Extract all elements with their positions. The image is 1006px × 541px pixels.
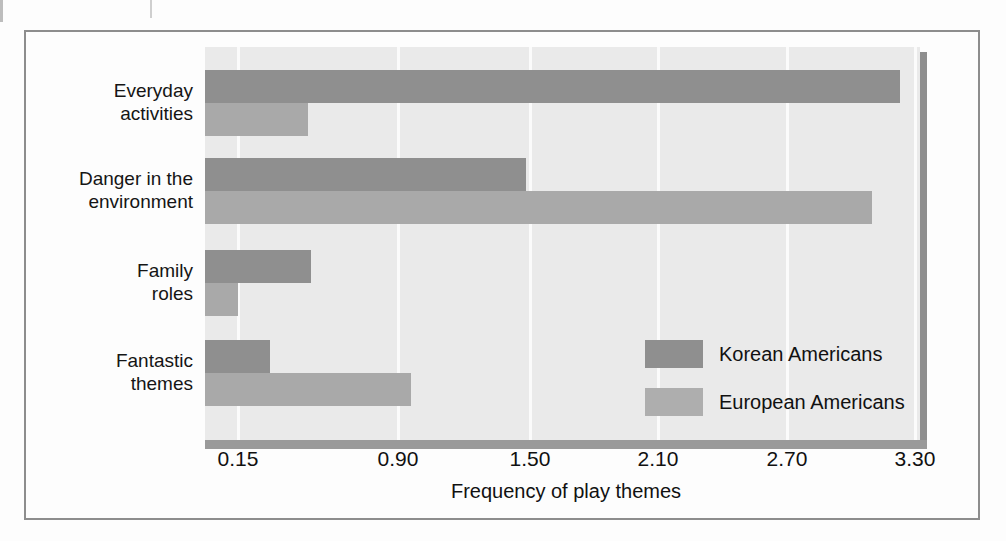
category-label-family-roles: Familyroles xyxy=(13,259,193,305)
category-label-line1: Danger in the xyxy=(13,167,193,190)
figure-container: EverydayactivitiesDanger in theenvironme… xyxy=(0,0,1006,541)
plot-shadow-right xyxy=(920,52,927,444)
bar-danger-in-the-environment-european-americans[interactable] xyxy=(205,191,872,224)
bar-everyday-activities-european-americans[interactable] xyxy=(205,103,308,136)
bar-fantastic-themes-european-americans[interactable] xyxy=(205,373,411,406)
legend-swatch-korean-americans xyxy=(645,340,703,368)
category-label-danger-in-the-environment: Danger in theenvironment xyxy=(13,167,193,213)
bar-family-roles-european-americans[interactable] xyxy=(205,283,238,316)
legend-label-european-americans: European Americans xyxy=(719,388,905,416)
bar-danger-in-the-environment-korean-americans[interactable] xyxy=(205,158,526,191)
x-tick-label-0-15: 0.15 xyxy=(193,447,283,471)
bar-family-roles-korean-americans[interactable] xyxy=(205,250,311,283)
legend-item-korean-americans[interactable]: Korean Americans xyxy=(645,336,915,374)
x-tick-label-1-50: 1.50 xyxy=(485,447,575,471)
legend-swatch-european-americans xyxy=(645,388,703,416)
category-label-line1: Family xyxy=(13,259,193,282)
x-axis-title: Frequency of play themes xyxy=(205,480,927,503)
bar-everyday-activities-korean-americans[interactable] xyxy=(205,70,900,103)
x-tick-label-2-70: 2.70 xyxy=(742,447,832,471)
category-label-line1: Everyday xyxy=(13,79,193,102)
legend: Korean Americans European Americans xyxy=(645,336,915,432)
category-label-line2: environment xyxy=(13,190,193,213)
category-label-line1: Fantastic xyxy=(13,349,193,372)
scan-artifact-tick xyxy=(150,0,152,18)
gridline-1-50 xyxy=(529,47,532,440)
category-label-line2: activities xyxy=(13,102,193,125)
legend-item-european-americans[interactable]: European Americans xyxy=(645,384,915,422)
scan-artifact-bracket xyxy=(0,0,10,22)
category-label-everyday-activities: Everydayactivities xyxy=(13,79,193,125)
bar-fantastic-themes-korean-americans[interactable] xyxy=(205,340,270,373)
legend-label-korean-americans: Korean Americans xyxy=(719,340,882,368)
x-tick-label-3-30: 3.30 xyxy=(870,447,960,471)
category-label-line2: roles xyxy=(13,282,193,305)
x-tick-label-0-90: 0.90 xyxy=(353,447,443,471)
x-tick-label-2-10: 2.10 xyxy=(613,447,703,471)
category-label-fantastic-themes: Fantasticthemes xyxy=(13,349,193,395)
category-label-line2: themes xyxy=(13,372,193,395)
